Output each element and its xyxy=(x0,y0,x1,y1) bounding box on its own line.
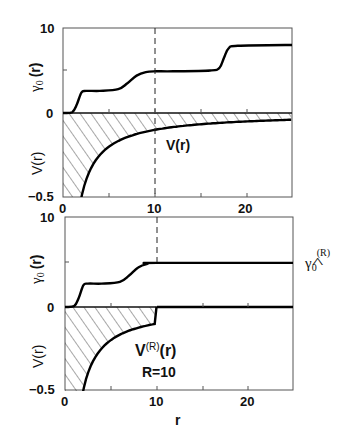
bottom-xlabel: r xyxy=(175,412,181,428)
svg-text:γ0(r): γ0(r) xyxy=(28,255,46,285)
top-gamma-curve xyxy=(63,45,293,113)
top-gamma-ylabel: γ0(r) xyxy=(27,63,45,93)
bottom-panel: 10 0 −0.5 0 10 20 r γ0(r) V(r) V(R)(r) R… xyxy=(28,210,330,428)
bottom-panel-frame xyxy=(65,217,293,390)
top-xtick-20: 20 xyxy=(238,201,252,216)
bottom-v-annotation: V(R)(r) xyxy=(135,341,176,359)
top-ytick-10: 10 xyxy=(40,21,54,36)
svg-text:V(r): V(r) xyxy=(30,345,46,368)
bottom-xtick-10: 10 xyxy=(149,394,163,409)
bottom-ytick-minus-0.5: −0.5 xyxy=(29,382,55,397)
bottom-v-ylabel: V(r) xyxy=(30,345,46,368)
top-ytick-minus-0.5: −0.5 xyxy=(28,189,54,204)
bottom-xtick-20: 20 xyxy=(240,394,254,409)
figure: 10 0 −0.5 0 10 20 γ0(r) V(r) V(r) xyxy=(0,0,350,445)
top-v-ylabel: V(r) xyxy=(29,152,45,175)
bottom-gamma-curve xyxy=(65,263,294,307)
bottom-gamma-ylabel: γ0(r) xyxy=(28,255,46,285)
svg-text:γ0(r): γ0(r) xyxy=(27,63,45,93)
svg-text:V(r): V(r) xyxy=(29,152,45,175)
gamma-hat-side-label: ^ γ0(R) xyxy=(304,247,330,273)
bottom-ytick-0: 0 xyxy=(47,300,54,315)
top-xtick-0: 0 xyxy=(59,201,66,216)
bottom-ytick-10: 10 xyxy=(40,210,54,225)
top-panel: 10 0 −0.5 0 10 20 γ0(r) V(r) V(r) xyxy=(27,21,293,216)
top-v-annotation: V(r) xyxy=(166,137,190,153)
bottom-r-annotation: R=10 xyxy=(142,364,176,380)
top-xtick-10: 10 xyxy=(147,201,161,216)
top-ytick-0: 0 xyxy=(46,106,53,121)
bottom-xtick-0: 0 xyxy=(61,394,68,409)
